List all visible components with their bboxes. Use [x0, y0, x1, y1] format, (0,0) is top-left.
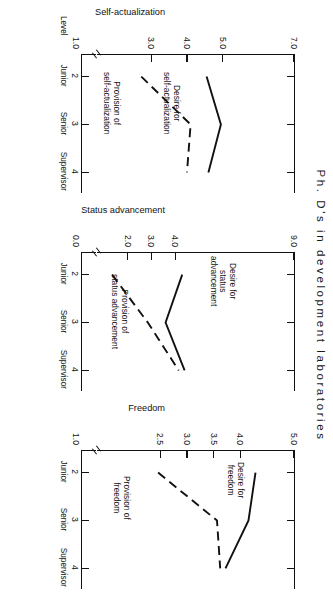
y-tick-label: 3.0	[146, 19, 156, 49]
rotated-figure-wrapper: Ph. D's in development laboratories 1.03…	[0, 0, 333, 611]
y-tick-label: 2.5	[155, 415, 165, 445]
y-tick-label: 5.0	[218, 19, 228, 49]
x-tick-label-number: 2	[70, 73, 80, 78]
series-provision	[158, 473, 220, 569]
x-tick-label-category: Supervisor	[59, 350, 68, 389]
x-tick-label-category: Senior	[59, 112, 68, 136]
x-tick-label-number: 3	[70, 121, 80, 126]
y-tick-label: 5.0	[289, 415, 299, 445]
x-tick-label-category: Senior	[59, 508, 68, 532]
x-tick-label-category: Junior	[59, 460, 68, 482]
x-tick-label-number: 2	[70, 469, 80, 474]
y-tick-label: 2.0	[123, 217, 133, 247]
y-tick-label: 4.0	[170, 217, 180, 247]
series-lines	[76, 253, 294, 400]
series-desire	[207, 77, 221, 173]
y-tick-label: 3.0	[146, 217, 156, 247]
series-annotation: Desire for status advancement	[208, 256, 237, 306]
axis-break-icon	[96, 248, 97, 257]
y-tick-label: 7.0	[289, 19, 299, 49]
series-desire	[166, 275, 185, 371]
chart-panel-status-advancement: 0.02.03.04.09.0 Status advancement 2Juni…	[31, 212, 299, 395]
series-annotation: Provision of status advancement	[110, 274, 129, 349]
y-tick-label: 3.0	[182, 415, 192, 445]
x-tick-label-category: Junior	[59, 262, 68, 284]
x-tick-label-number: 4	[70, 565, 80, 570]
series-annotation: Provision of freedom	[112, 476, 131, 520]
x-tick-label-number: 4	[70, 367, 80, 372]
y-tick-label: 1.0	[71, 19, 81, 49]
axis-break-icon	[96, 50, 97, 59]
x-tick-label-category: Senior	[59, 310, 68, 334]
series-annotation: Desire for self-actualization	[162, 72, 181, 134]
y-axis-title: Freedom	[128, 403, 165, 413]
y-axis-title: Status advancement	[81, 205, 165, 215]
x-tick-label-category: Junior	[59, 64, 68, 86]
series-annotation: Provision of self-actualization	[102, 72, 121, 134]
y-tick-label: 3.5	[209, 415, 219, 445]
y-tick-label: 0.0	[71, 217, 81, 247]
series-annotation: Desire for freedom	[226, 462, 245, 498]
y-tick-label: 1.0	[71, 415, 81, 445]
y-tick-label: 4.0	[182, 19, 192, 49]
x-tick-label-number: 3	[70, 319, 80, 324]
x-axis-title: Level	[59, 16, 68, 36]
figure-canvas: Ph. D's in development laboratories 1.03…	[0, 0, 333, 611]
x-tick-label-category: Supervisor	[59, 152, 68, 191]
x-tick-label-number: 2	[70, 271, 80, 276]
axis-break-icon	[96, 446, 97, 455]
chart-panel-self-actualization: 1.03.04.05.07.0 Self-actualization 2Juni…	[31, 14, 299, 197]
series-lines	[76, 451, 294, 598]
y-tick-label: 9.0	[289, 217, 299, 247]
y-tick-label: 4.0	[236, 415, 246, 445]
figure-title: Ph. D's in development laboratories	[315, 0, 327, 611]
chart-panel-freedom: 1.02.53.03.54.05.0 Freedom 2Junior3Senio…	[31, 410, 299, 593]
y-axis-title: Self-actualization	[95, 7, 165, 17]
x-tick-label-number: 4	[70, 169, 80, 174]
x-tick-label-number: 3	[70, 517, 80, 522]
x-tick-label-category: Supervisor	[59, 548, 68, 587]
